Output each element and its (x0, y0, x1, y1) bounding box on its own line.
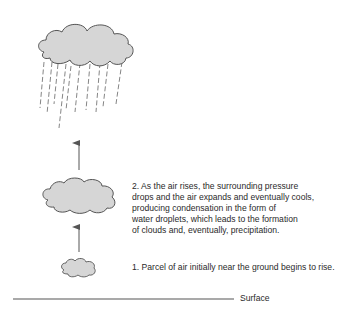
step-2-caption: 2. As the air rises, the surrounding pre… (132, 181, 314, 236)
rain-streaks (40, 62, 122, 128)
small-cloud (62, 258, 96, 276)
step-2-line: producing condensation in the form of (132, 203, 314, 214)
surface-label: Surface (240, 293, 270, 303)
step-1-caption: 1. Parcel of air initially near the grou… (132, 262, 335, 273)
step-2-line: 2. As the air rises, the surrounding pre… (132, 181, 314, 192)
rain-cloud (39, 24, 134, 66)
step-2-line: drops and the air expands and eventually… (132, 192, 314, 203)
step-2-line: of clouds and, eventually, precipitation… (132, 225, 314, 236)
medium-cloud (43, 178, 115, 213)
step-2-line: water droplets, which leads to the forma… (132, 214, 314, 225)
